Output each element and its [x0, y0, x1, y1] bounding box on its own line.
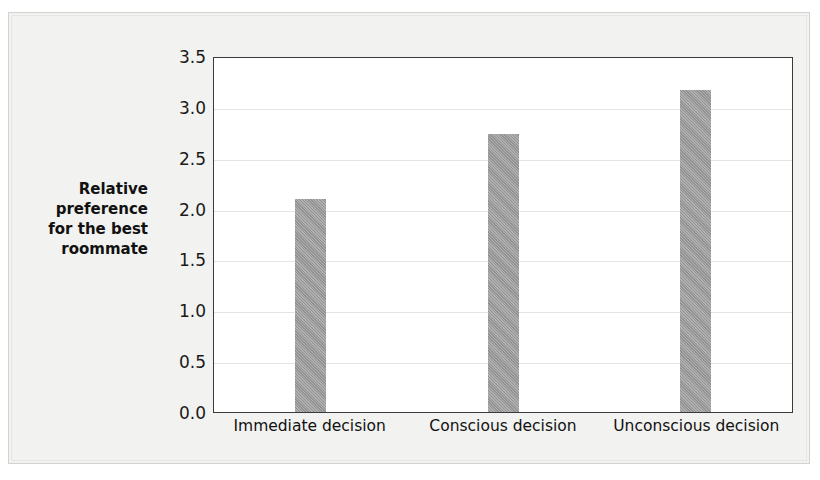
plot-area	[213, 57, 793, 413]
bar	[680, 90, 711, 412]
y-tick-label: 3.5	[158, 47, 206, 67]
bar-slot	[214, 58, 407, 412]
bar-slot	[599, 58, 792, 412]
y-tick-label: 2.5	[158, 149, 206, 169]
bar-slot	[407, 58, 600, 412]
x-tick-label: Immediate decision	[213, 417, 406, 435]
y-tick-label: 0.0	[158, 403, 206, 423]
bars-layer	[214, 58, 792, 412]
y-axis-tick-labels: 0.00.51.01.52.02.53.03.5	[158, 57, 206, 413]
x-tick-label: Unconscious decision	[600, 417, 793, 435]
y-tick-label: 3.0	[158, 98, 206, 118]
y-tick-label: 1.5	[158, 250, 206, 270]
bar-chart-figure: Relative preference for the best roommat…	[0, 0, 820, 480]
y-axis-title: Relative preference for the best roommat…	[18, 180, 148, 260]
y-tick-label: 2.0	[158, 200, 206, 220]
y-tick-label: 0.5	[158, 352, 206, 372]
bar	[488, 134, 519, 412]
x-axis-tick-labels: Immediate decisionConscious decisionUnco…	[213, 417, 793, 435]
x-tick-label: Conscious decision	[406, 417, 599, 435]
y-tick-label: 1.0	[158, 301, 206, 321]
bar	[295, 199, 326, 412]
